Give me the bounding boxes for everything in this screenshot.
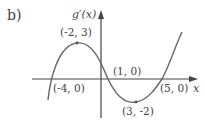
y-axis-arrow-icon — [98, 10, 104, 19]
min-label: (3, -2) — [122, 105, 154, 117]
root3-label: (5, 0) — [160, 82, 188, 94]
y-axis-label: g′(x) — [72, 8, 96, 21]
max-point — [76, 42, 79, 45]
max-label: (-2, 3) — [60, 26, 92, 38]
root1-label: (-4, 0) — [53, 82, 85, 94]
x-axis-label: x — [193, 82, 200, 95]
root2-label: (1, 0) — [113, 65, 141, 77]
min-point — [135, 101, 138, 104]
graph: g′(x) (-2, 3) (-4, 0) (1, 0) (3, -2) (5,… — [0, 0, 205, 120]
